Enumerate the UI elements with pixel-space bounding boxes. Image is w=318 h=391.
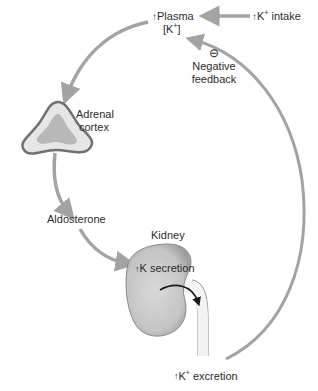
k-excretion-label: ↑K+ excretion xyxy=(174,370,238,383)
minus-circle-icon: ⊖ xyxy=(184,47,244,60)
k-intake-label: ↑K+ intake xyxy=(252,10,301,23)
negative-feedback-label: ⊖ Negative feedback xyxy=(184,47,244,86)
k-secretion-label: ↑K secretion xyxy=(135,262,195,276)
kidney-label: Kidney xyxy=(151,229,185,242)
plasma-k-concentration: [K+] xyxy=(163,23,181,36)
adrenal-cortex-label: Adrenal cortex xyxy=(76,108,114,134)
kidney-illustration xyxy=(126,244,208,356)
arrow-adrenal-to-aldosterone xyxy=(54,153,68,212)
arrow-feedback-excretion-to-plasma xyxy=(194,40,304,359)
arrow-plasma-to-adrenal xyxy=(67,22,148,95)
arrow-aldosterone-to-kidney xyxy=(80,229,126,263)
plasma-k-label: ↑Plasma xyxy=(152,10,194,23)
diagram-canvas xyxy=(0,0,318,391)
aldosterone-label: Aldosterone xyxy=(47,213,106,226)
